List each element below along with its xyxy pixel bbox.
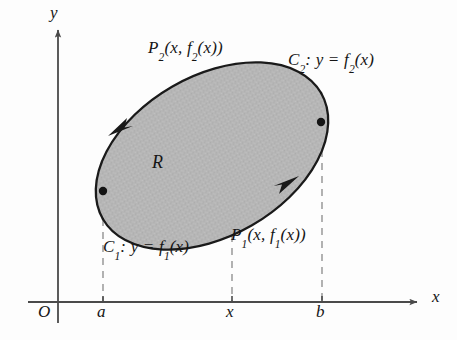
c2-equation: : y = f [305,50,349,69]
p2-subscript: 2 [159,51,165,64]
diagram-svg [0,0,457,340]
p2-close: (x)) [198,38,223,57]
point-label-p1: P1(x, f1(x)) [231,226,306,243]
p2-letter: P [148,38,159,57]
origin-label: O [38,303,50,320]
c1-func-subscript: 1 [164,250,170,263]
p1-close: (x)) [281,225,306,244]
figure-canvas: y x O a x b R P2(x, f2(x)) C2: y = f2(x)… [0,0,457,340]
p2-func-subscript: 2 [192,51,198,64]
right-endpoint-dot [317,118,325,126]
x-tick-label-a: a [97,303,106,320]
p1-subscript: 1 [242,238,248,251]
p2-open: (x, f [164,38,191,57]
p1-open: (x, f [247,225,274,244]
c2-subscript: 2 [300,63,306,76]
p1-func-subscript: 1 [275,238,281,251]
left-endpoint-dot [99,187,107,195]
c2-letter: C [288,50,300,69]
point-label-p2: P2(x, f2(x)) [148,39,223,56]
y-axis-label: y [50,4,58,21]
c1-letter: C [103,237,115,256]
curve-label-c2: C2: y = f2(x) [288,51,374,68]
c1-argument: (x) [170,237,189,256]
x-tick-label-b: b [316,303,325,320]
curve-label-c1: C1: y = f1(x) [103,238,189,255]
x-axis-label: x [432,288,440,305]
region-label-r: R [152,153,163,171]
c1-equation: : y = f [120,237,164,256]
p1-letter: P [231,225,242,244]
c2-argument: (x) [355,50,374,69]
x-tick-label-x: x [226,303,234,320]
c2-func-subscript: 2 [349,63,355,76]
c1-subscript: 1 [115,250,121,263]
